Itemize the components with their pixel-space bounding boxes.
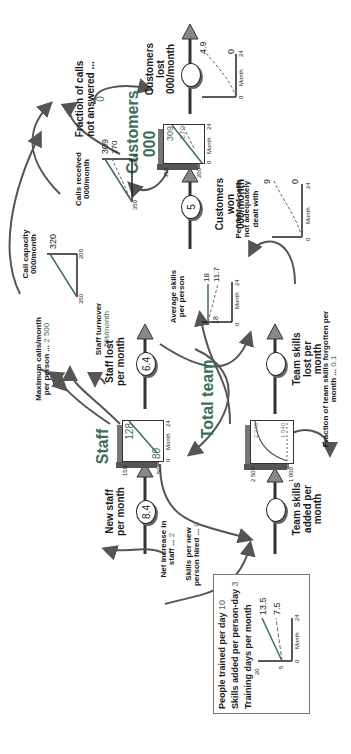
param-label: Fraction of team skills forgotten per mo… xyxy=(321,311,338,447)
param-value: 2 500 xyxy=(42,323,51,343)
param-label: People trained per day xyxy=(217,612,227,709)
tick: 200 xyxy=(196,168,202,178)
customers-won-valve[interactable]: 5 xyxy=(181,195,201,219)
curve-value: 18 xyxy=(202,273,211,282)
team-skills-added-label: Team skills added per month xyxy=(292,479,324,539)
tick: 0 xyxy=(165,459,171,462)
curve-value: 320 xyxy=(48,234,58,249)
curve-value: 11.7 xyxy=(212,267,221,282)
staff-lost-valve[interactable]: 6.4 xyxy=(136,352,156,376)
tick: 350 xyxy=(163,168,169,178)
tick: 200 xyxy=(78,249,84,259)
new-staff-valve[interactable]: 8.4 xyxy=(136,500,156,524)
param-value: 3 xyxy=(230,581,240,586)
tick: 24 xyxy=(305,182,311,189)
customers-lost-graph xyxy=(200,49,240,99)
max-calls-param[interactable]: Maximum calls/month per person ... 2 500 xyxy=(35,314,52,404)
net-increase-param[interactable]: Net increase in staff ... 2 xyxy=(160,519,177,579)
staff-stock[interactable]: 128 80 xyxy=(122,420,164,462)
axis-label: Month xyxy=(234,292,240,309)
param-label: Skills added per person-day xyxy=(230,589,240,709)
curve-value: 309 xyxy=(100,139,110,154)
customers-lost-valve[interactable] xyxy=(181,63,201,87)
staff-stock-title: Staff xyxy=(95,419,112,474)
skills-added-per-day-param[interactable]: Skills added per person-day 3 xyxy=(231,579,240,709)
call-capacity-title: Call capacity 000/month xyxy=(22,224,39,284)
tick: 24 xyxy=(234,279,240,286)
staff-lost-label: Staff lost per month xyxy=(105,334,126,389)
tick: 24 xyxy=(238,50,244,57)
training-graph xyxy=(256,613,296,663)
curve-value: 18 xyxy=(212,316,219,324)
fraction-forgotten-param[interactable]: Fraction of team skills forgotten per mo… xyxy=(322,304,339,454)
calls-received-graph xyxy=(100,154,135,204)
percent-not-dealt-graph xyxy=(270,179,305,239)
training-days-label: Training days per month xyxy=(244,579,253,709)
axis-label: Month xyxy=(165,433,171,450)
param-label: Fraction of calls not answered ... xyxy=(74,61,96,138)
axis-label: Month xyxy=(294,632,300,649)
team-skills-stock[interactable]: 2 340 1 540 xyxy=(250,420,294,464)
skills-per-new-param[interactable]: Skills per new person hired ... 0 xyxy=(185,519,202,589)
tick: 20 xyxy=(254,668,260,675)
param-value: 0 xyxy=(95,96,106,102)
tick: 200 xyxy=(132,154,138,164)
tick: 350 xyxy=(132,200,138,210)
zero-value: 0 xyxy=(290,179,300,184)
diagram-canvas: Customers 000 309 270 0 Month 24 350 200… xyxy=(0,0,351,754)
fraction-not-answered-param[interactable]: Fraction of calls not answered ... 0 xyxy=(75,59,107,139)
axis-label: Month xyxy=(305,207,311,224)
staff-value: 128 xyxy=(124,423,135,440)
team-skills-dashed-value: 1 540 xyxy=(280,423,286,438)
tick: 24 xyxy=(165,420,171,427)
percent-not-dealt-title: Percent of calls not adequately dealt wi… xyxy=(235,174,260,244)
curve-value: 270 xyxy=(110,141,119,154)
training-panel: People trained per day 10 Skills added p… xyxy=(213,574,310,714)
tick: 350 xyxy=(78,294,84,304)
team-skills-stock-title: Total team xyxy=(200,354,217,444)
tick: 50 xyxy=(156,467,162,474)
call-capacity-graph xyxy=(45,249,80,299)
axis-label: Month xyxy=(206,137,212,154)
curve-value: 9 xyxy=(262,179,272,184)
people-trained-param[interactable]: People trained per day 10 xyxy=(218,579,227,709)
tick: 0 xyxy=(305,238,311,241)
new-staff-label: New staff per month xyxy=(105,484,126,539)
average-skills-title: Average skills per person xyxy=(170,269,187,324)
customers-dashed-value: 270 xyxy=(178,126,187,139)
param-label: Net increase in staff ... xyxy=(159,521,176,578)
param-value: 10 xyxy=(217,600,227,610)
curve-value: 7.5 xyxy=(272,602,282,615)
staff-start-value: 80 xyxy=(151,448,162,459)
team-skills-lost-valve[interactable] xyxy=(266,352,286,376)
zero-value: 0 xyxy=(226,49,236,54)
customers-stock[interactable]: 309 270 xyxy=(163,124,205,164)
tick: 0 xyxy=(234,323,240,326)
tick: 5 xyxy=(278,666,284,669)
customers-value: 309 xyxy=(165,126,175,141)
param-value: 0.1 xyxy=(329,356,338,367)
tick: 0 xyxy=(206,161,212,164)
tick: 0 xyxy=(294,660,300,663)
tick: 2 500 xyxy=(250,467,256,482)
tick: 150 xyxy=(122,466,128,476)
team-skills-curve-value: 2 340 xyxy=(253,423,259,438)
param-value: 2 xyxy=(167,533,176,537)
customers-lost-label: Customers lost 000/month xyxy=(145,34,177,104)
tick: 0 xyxy=(238,96,244,99)
curve-value: 13.5 xyxy=(258,597,268,615)
curve-value: 4.9 xyxy=(198,41,208,54)
tick: 24 xyxy=(294,614,300,621)
axis-label: Month xyxy=(238,69,244,86)
tick: 24 xyxy=(206,123,212,130)
param-label: Skills per new person hired ... xyxy=(184,527,201,586)
param-value: 0 xyxy=(192,522,201,526)
calls-received-title: Calls received 000/month xyxy=(75,149,92,209)
team-skills-lost-label: Team skills lost per month xyxy=(292,329,324,389)
team-skills-added-valve[interactable] xyxy=(266,498,286,522)
